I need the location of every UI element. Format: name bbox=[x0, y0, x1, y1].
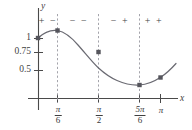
x-tick-label-pi: π bbox=[159, 105, 164, 115]
y-tick-label-1: 1 bbox=[0, 33, 31, 43]
x-tick-numerator: π bbox=[55, 105, 62, 116]
dashed-separators bbox=[58, 14, 140, 103]
x-tick-numerator: 5π bbox=[134, 105, 145, 116]
curve-path bbox=[38, 30, 176, 85]
data-point-marker bbox=[36, 36, 40, 40]
y-tick-label-05: 0.5 bbox=[0, 65, 31, 75]
data-point-markers bbox=[36, 28, 163, 87]
x-tick-label-pi-over-2: π 2 bbox=[96, 105, 103, 125]
x-tick-numerator: π bbox=[96, 105, 103, 116]
x-tick-denominator: 6 bbox=[134, 116, 145, 126]
y-axis-label: y bbox=[41, 2, 45, 12]
x-tick-denominator: 6 bbox=[55, 116, 62, 126]
data-point-marker bbox=[137, 83, 141, 87]
x-tick-label-pi-over-6: π 6 bbox=[55, 105, 62, 125]
sign-region-1: + − bbox=[39, 16, 57, 26]
x-tick-label-5pi-over-6: 5π 6 bbox=[134, 105, 145, 125]
sign-region-3: − + bbox=[111, 16, 129, 26]
sign-region-2: − − bbox=[70, 16, 88, 26]
x-axis-label: x bbox=[180, 94, 184, 104]
y-tick-label-075: 0.75 bbox=[0, 47, 31, 57]
sign-region-4: + + bbox=[145, 16, 163, 26]
x-tick-denominator: 2 bbox=[96, 116, 103, 126]
data-point-marker bbox=[55, 28, 59, 32]
data-point-marker bbox=[158, 75, 162, 79]
trig-sign-chart-figure: y x 1 0.75 0.5 π 6 π 2 5π 6 π + − − − − … bbox=[0, 0, 192, 130]
data-point-marker bbox=[96, 50, 100, 54]
